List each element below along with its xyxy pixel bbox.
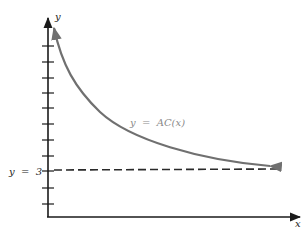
ac-curve	[54, 28, 270, 166]
x-axis-label: x	[295, 218, 301, 229]
ac-curve-diagram: y x y = AC(x) y = 3	[0, 0, 304, 236]
curve-label: y = AC(x)	[129, 117, 185, 128]
asymptote-line	[54, 169, 279, 170]
y-axis-label: y	[54, 11, 61, 22]
asymptote-label: y = 3	[8, 166, 42, 177]
